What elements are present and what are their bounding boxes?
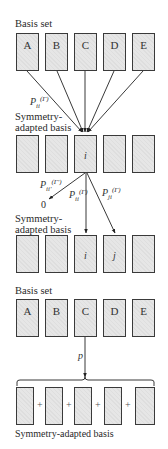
brace xyxy=(17,377,154,386)
arrow-i-to-j xyxy=(87,173,115,233)
arrows-layer xyxy=(0,0,168,449)
arrow-e-to-i xyxy=(88,71,143,132)
arrow-i-to-zero xyxy=(49,173,85,199)
arrow-a-to-i xyxy=(27,71,82,132)
arrow-d-to-i xyxy=(87,71,114,132)
arrow-b-to-i xyxy=(57,71,83,132)
